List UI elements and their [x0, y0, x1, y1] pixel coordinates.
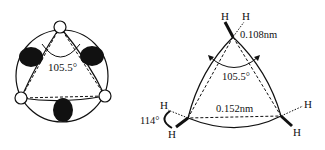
h-label-right-lower: H [293, 126, 301, 138]
left-orbital-diagram: 105.5° [15, 21, 111, 122]
right-structure-diagram: H H H H H H 0.108nm 105.5° 0.152nm 114° [140, 10, 312, 140]
ch-bond-length-label: 0.108nm [240, 29, 277, 40]
left-angle-label: 105.5° [48, 61, 77, 73]
h-label-left-upper: H [160, 99, 168, 111]
cc-bond-length-label: 0.152nm [216, 103, 253, 114]
hch-angle-label: 114° [140, 115, 160, 126]
h-label-right-upper: H [304, 98, 312, 110]
interorbital-angle-label: 105.5° [222, 71, 250, 82]
h-label-left-lower: H [168, 128, 176, 140]
h-label-top-left: H [221, 10, 229, 22]
cyclopropane-diagrams: 105.5° H H H H H H 0.108nm 105.5° 0.152n… [0, 0, 325, 150]
h-label-top-right: H [242, 10, 250, 22]
